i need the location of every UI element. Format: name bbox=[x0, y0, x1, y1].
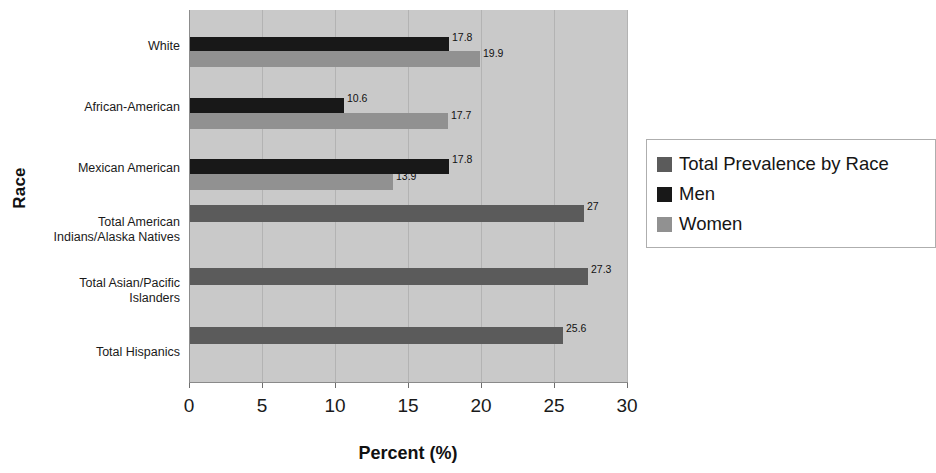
data-label-women-mexican-american: 13.9 bbox=[396, 171, 416, 182]
legend-swatch-icon-women bbox=[657, 217, 672, 232]
x-tick-mark-15 bbox=[408, 383, 409, 388]
y-tick-label-line2: Indians/Alaska Natives bbox=[54, 230, 180, 245]
y-tick-label-white: White bbox=[148, 39, 180, 54]
bar-total-asian-pacific-islanders[interactable] bbox=[190, 268, 588, 285]
x-tick-label-5: 5 bbox=[242, 395, 282, 417]
data-label-total-hispanics: 25.6 bbox=[566, 323, 586, 334]
gridline-30 bbox=[627, 10, 628, 382]
x-tick-label-0: 0 bbox=[169, 395, 209, 417]
bar-total-hispanics[interactable] bbox=[190, 327, 563, 344]
data-label-men-african-american: 10.6 bbox=[347, 93, 367, 104]
x-axis-title: Percent (%) bbox=[189, 443, 627, 464]
legend-item-women[interactable]: Women bbox=[657, 209, 935, 239]
legend-item-men[interactable]: Men bbox=[657, 179, 935, 209]
y-tick-label-line1: Total Hispanics bbox=[96, 345, 180, 360]
legend-item-total-prevalence[interactable]: Total Prevalence by Race bbox=[657, 149, 935, 179]
x-tick-label-30: 30 bbox=[607, 395, 647, 417]
data-label-total-asian-pacific: 27.3 bbox=[591, 264, 611, 275]
y-tick-label-total-hispanics: Total Hispanics bbox=[96, 345, 180, 360]
y-tick-label-african-american: African-American bbox=[84, 100, 180, 115]
data-label-women-african-american: 17.7 bbox=[451, 110, 471, 121]
bar-women-white[interactable] bbox=[190, 51, 480, 67]
bar-men-white[interactable] bbox=[190, 37, 449, 51]
x-tick-mark-10 bbox=[335, 383, 336, 388]
x-tick-label-15: 15 bbox=[388, 395, 428, 417]
data-label-men-mexican-american: 17.8 bbox=[452, 154, 472, 165]
legend-swatch-icon-men bbox=[657, 187, 672, 202]
bar-total-american-indians[interactable] bbox=[190, 205, 584, 222]
data-label-men-white: 17.8 bbox=[452, 32, 472, 43]
y-tick-label-line1: White bbox=[148, 39, 180, 54]
y-tick-label-line1: Total Asian/Pacific bbox=[79, 276, 180, 291]
x-tick-label-25: 25 bbox=[534, 395, 574, 417]
y-tick-label-line1: African-American bbox=[84, 100, 180, 115]
bar-men-african-american[interactable] bbox=[190, 98, 344, 113]
legend-label-women: Women bbox=[679, 214, 742, 234]
legend-label-men: Men bbox=[679, 184, 715, 204]
bar-women-african-american[interactable] bbox=[190, 113, 448, 129]
x-tick-mark-5 bbox=[262, 383, 263, 388]
x-tick-mark-25 bbox=[554, 383, 555, 388]
y-tick-label-line1: Total American bbox=[54, 215, 180, 230]
y-tick-label-mexican-american: Mexican American bbox=[78, 161, 180, 176]
legend: Total Prevalence by Race Men Women bbox=[646, 139, 936, 248]
y-tick-label-line1: Mexican American bbox=[78, 161, 180, 176]
y-tick-label-total-american-indians: Total American Indians/Alaska Natives bbox=[54, 215, 180, 245]
plot-area bbox=[189, 10, 628, 382]
data-label-total-american-indians: 27 bbox=[587, 201, 599, 212]
data-label-women-white: 19.9 bbox=[483, 48, 503, 59]
x-tick-mark-0 bbox=[189, 383, 190, 388]
y-axis-title: Race bbox=[10, 143, 30, 233]
x-tick-label-10: 10 bbox=[315, 395, 355, 417]
legend-swatch-icon-total-prevalence bbox=[657, 157, 672, 172]
y-tick-label-line2: Islanders bbox=[79, 291, 180, 306]
x-tick-mark-30 bbox=[627, 383, 628, 388]
y-tick-label-total-asian-pacific-islanders: Total Asian/Pacific Islanders bbox=[79, 276, 180, 306]
legend-label-total-prevalence: Total Prevalence by Race bbox=[679, 154, 889, 174]
bar-women-mexican-american[interactable] bbox=[190, 174, 393, 190]
x-tick-label-20: 20 bbox=[461, 395, 501, 417]
x-tick-mark-20 bbox=[481, 383, 482, 388]
